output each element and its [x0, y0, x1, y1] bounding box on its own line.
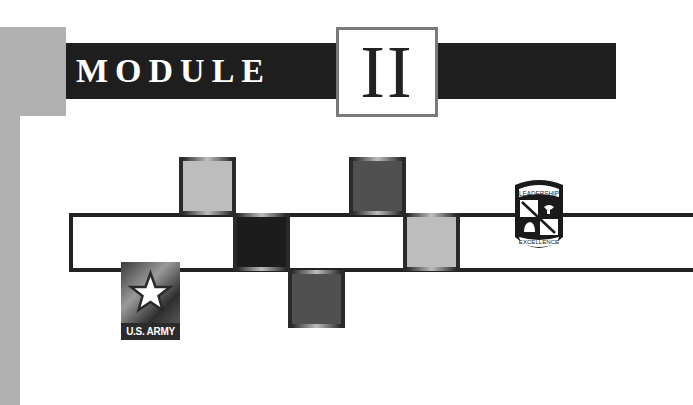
square-light-top-1	[179, 157, 236, 215]
square-dark-bottom	[288, 270, 345, 328]
module-number: II	[360, 35, 413, 109]
svg-text:LEADERSHIP: LEADERSHIP	[519, 190, 559, 197]
army-label: U.S. ARMY	[121, 323, 180, 340]
module-title: MODULE	[76, 53, 271, 89]
square-dark-top-2	[349, 157, 406, 215]
star-icon	[121, 262, 180, 323]
us-army-logo: U.S. ARMY	[121, 262, 180, 340]
square-black-middle	[233, 213, 290, 271]
square-light-middle-2	[403, 213, 460, 271]
module-number-box: II	[336, 27, 438, 117]
gray-side-strip	[0, 116, 20, 405]
svg-text:EXCELLENCE: EXCELLENCE	[519, 238, 559, 245]
gray-corner-block	[0, 27, 66, 116]
rotc-shield-icon: LEADERSHIP EXCELLENCE	[511, 177, 567, 253]
